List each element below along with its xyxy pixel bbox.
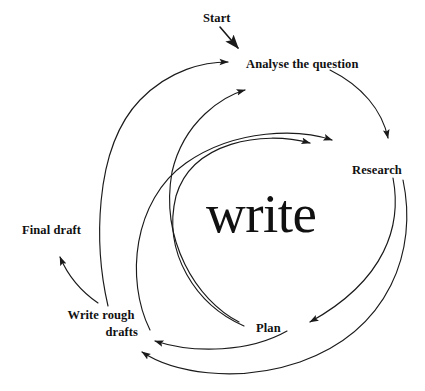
node-research: Research bbox=[352, 163, 402, 178]
edge-drafts-to-final-draft bbox=[60, 257, 98, 303]
node-start: Start bbox=[203, 11, 231, 26]
edge-start-to-analyse bbox=[220, 27, 238, 48]
node-final-draft: Final draft bbox=[22, 223, 81, 238]
edge-analyse-to-research bbox=[330, 70, 388, 138]
node-write-rough-drafts-line2: drafts bbox=[64, 325, 138, 340]
center-word-write: write bbox=[206, 186, 317, 241]
node-analyse-the-question: Analyse the question bbox=[246, 57, 358, 72]
node-write-rough-drafts-line1: Write rough bbox=[64, 308, 138, 323]
node-plan: Plan bbox=[256, 321, 281, 336]
process-diagram: Start Analyse the question Research Plan… bbox=[0, 0, 425, 391]
